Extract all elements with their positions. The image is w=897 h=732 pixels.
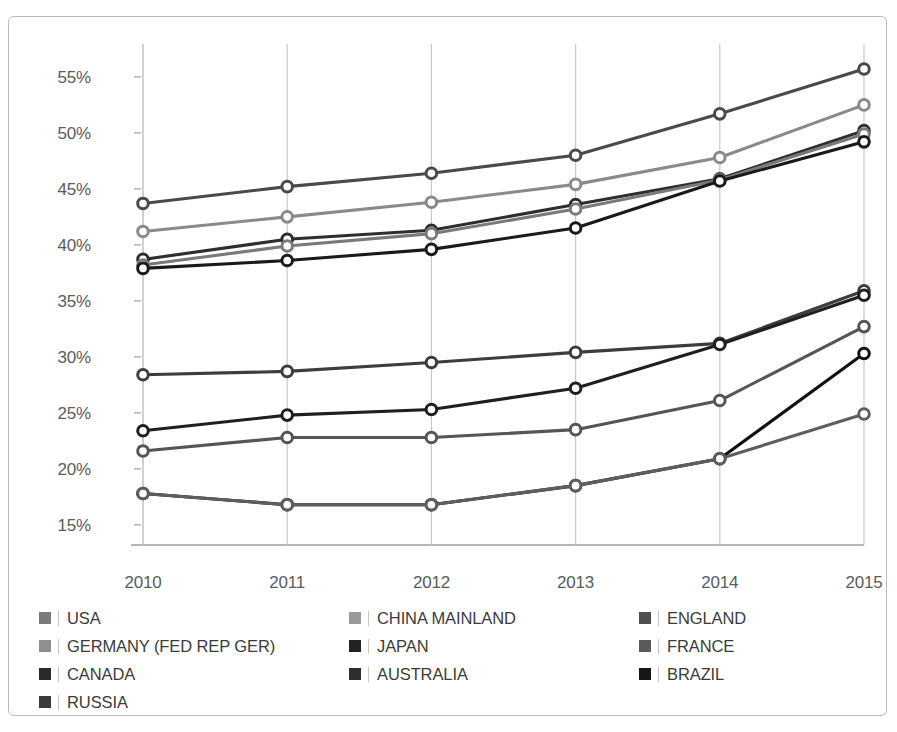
legend-separator (368, 667, 369, 682)
legend-item-china-mainland[interactable]: CHINA MAINLAND (349, 605, 516, 631)
legend-label: GERMANY (FED REP GER) (67, 637, 275, 656)
legend-swatch-icon (39, 668, 51, 680)
plot-area (105, 42, 876, 567)
legend-label: AUSTRALIA (377, 665, 468, 684)
chart-figure-frame: 15%20%25%30%35%40%45%50%55% 201020112012… (8, 16, 887, 716)
line-chart-svg (105, 42, 876, 567)
y-tick-label: 45% (39, 180, 91, 200)
x-tick-label: 2015 (845, 573, 882, 593)
x-axis: 201020112012201320142015 (105, 573, 876, 597)
legend-label: BRAZIL (667, 665, 724, 684)
legend-swatch-icon (349, 668, 361, 680)
x-tick-label: 2010 (124, 573, 161, 593)
legend-label: RUSSIA (67, 693, 128, 712)
y-tick-label: 25% (39, 404, 91, 424)
y-tick-label: 35% (39, 292, 91, 312)
legend-separator (58, 611, 59, 626)
legend-item-russia[interactable]: RUSSIA (39, 689, 128, 715)
series-japan (138, 137, 870, 274)
legend-swatch-icon (39, 696, 51, 708)
gridlines (143, 44, 864, 545)
x-tick-label: 2011 (269, 573, 305, 593)
legend-swatch-icon (639, 640, 651, 652)
screenshot-root: 15%20%25%30%35%40%45%50%55% 201020112012… (0, 0, 897, 732)
legend-item-australia[interactable]: AUSTRALIA (349, 661, 468, 687)
legend-item-japan[interactable]: JAPAN (349, 633, 428, 659)
y-tick-label: 55% (39, 68, 91, 88)
series-england (138, 125, 870, 264)
cropped-header-strip (0, 0, 897, 12)
legend-label: ENGLAND (667, 609, 746, 628)
legend-separator (658, 639, 659, 654)
y-axis: 15%20%25%30%35%40%45%50%55% (31, 42, 91, 567)
series-canada (138, 290, 870, 436)
legend-separator (58, 639, 59, 654)
legend-swatch-icon (349, 640, 361, 652)
legend-swatch-icon (639, 668, 651, 680)
legend-item-germany-fed-rep-ger[interactable]: GERMANY (FED REP GER) (39, 633, 275, 659)
series-australia (138, 321, 870, 456)
axis-spines (131, 44, 864, 545)
legend-label: CHINA MAINLAND (377, 609, 516, 628)
y-tick-label: 20% (39, 460, 91, 480)
y-tick-marks (134, 77, 141, 525)
x-tick-label: 2014 (701, 573, 738, 593)
series-germany-fed-rep-ger (138, 129, 870, 271)
legend-swatch-icon (39, 612, 51, 624)
legend-separator (658, 611, 659, 626)
series-usa (138, 64, 870, 209)
series-france (138, 285, 870, 380)
y-tick-label: 50% (39, 124, 91, 144)
legend-separator (58, 667, 59, 682)
y-tick-label: 30% (39, 348, 91, 368)
legend-label: CANADA (67, 665, 135, 684)
legend-separator (658, 667, 659, 682)
legend-label: JAPAN (377, 637, 428, 656)
legend-item-england[interactable]: ENGLAND (639, 605, 746, 631)
y-tick-label: 15% (39, 516, 91, 536)
legend-separator (368, 611, 369, 626)
x-tick-label: 2012 (413, 573, 450, 593)
data-series-group (138, 64, 870, 510)
legend-separator (368, 639, 369, 654)
legend-item-usa[interactable]: USA (39, 605, 101, 631)
legend-item-canada[interactable]: CANADA (39, 661, 135, 687)
chart-legend: USACHINA MAINLANDENGLANDGERMANY (FED REP… (39, 605, 869, 713)
legend-item-france[interactable]: FRANCE (639, 633, 734, 659)
legend-swatch-icon (39, 640, 51, 652)
legend-separator (58, 695, 59, 710)
legend-swatch-icon (349, 612, 361, 624)
series-russia (138, 409, 870, 510)
legend-item-brazil[interactable]: BRAZIL (639, 661, 724, 687)
x-tick-label: 2013 (557, 573, 594, 593)
legend-label: USA (67, 609, 101, 628)
y-tick-label: 40% (39, 236, 91, 256)
legend-swatch-icon (639, 612, 651, 624)
legend-label: FRANCE (667, 637, 734, 656)
